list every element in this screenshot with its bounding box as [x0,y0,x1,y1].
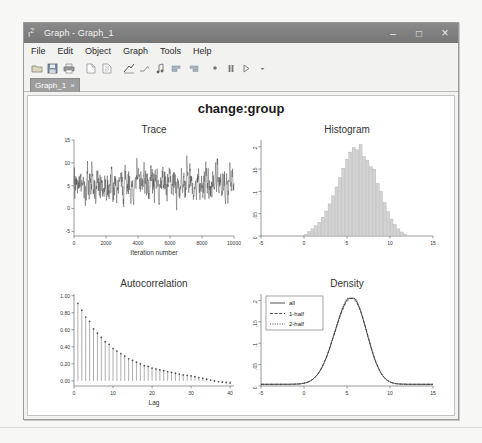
acf-marker [163,370,165,372]
y-tick-label: 10 [64,160,70,166]
x-tick-label: 8000 [196,240,207,246]
y-tick-label: 0 [67,205,70,211]
x-tick-label: 6000 [164,240,175,246]
histogram-bar [397,229,400,236]
maximize-button[interactable]: □ [406,23,432,43]
histogram-bar [332,196,335,236]
menu-bar: File Edit Object Graph Tools Help [24,43,458,59]
histogram-bar [380,191,383,236]
graph-canvas[interactable]: change:group Trace0200040006000800010000… [27,95,455,416]
x-tick-label: 5 [346,240,349,246]
plots-svg: Trace0200040006000800010000-5051015Itera… [28,118,452,408]
histogram-bar [400,232,403,236]
legend-label-all: all [289,300,295,306]
histogram-bar [335,187,338,236]
acf-marker [128,358,130,360]
panel-title: Trace [141,124,167,135]
acf-marker [104,341,106,343]
panel-trace: Trace0200040006000800010000-5051015Itera… [64,124,241,256]
histogram-bar [311,229,314,236]
add-line-icon[interactable] [137,61,152,76]
acf-marker [171,372,173,374]
acf-marker [206,378,208,380]
align-right-icon[interactable] [185,61,200,76]
y-tick-label: 0.40 [60,344,70,350]
acf-marker [93,328,95,330]
print-icon[interactable] [61,61,76,76]
menu-item-graph[interactable]: Graph [123,46,148,56]
histogram-bar [307,232,310,236]
x-tick-label: 0 [303,390,306,396]
tab-strip: Graph_1 × [24,77,458,92]
graph-editor-icon[interactable] [121,61,136,76]
histogram-bar [390,219,393,236]
x-tick-label: 15 [430,240,436,246]
acf-marker [210,379,212,381]
x-tick-label: 2000 [100,240,111,246]
desktop-background: I2 Graph - Graph_1 – □ × File Edit Objec… [0,0,482,443]
new-page-icon[interactable] [83,61,98,76]
tab-close-icon[interactable]: × [70,81,75,90]
pause-icon[interactable] [223,61,238,76]
legend-label-2-half: 2-half [289,321,304,327]
menu-item-help[interactable]: Help [193,46,212,56]
histogram-bar [404,234,407,236]
open-icon[interactable] [29,61,44,76]
acf-marker [218,381,220,383]
play-icon[interactable] [239,61,254,76]
menu-item-object[interactable]: Object [85,46,111,56]
acf-marker [194,376,196,378]
align-left-icon[interactable] [169,61,184,76]
dropdown-arrow-icon[interactable] [255,61,270,76]
add-marker-icon[interactable] [153,61,168,76]
histogram-bar [366,160,369,236]
y-tick-label: -5 [66,228,71,234]
acf-marker [100,337,102,339]
y-tick-label: .1 [252,343,258,347]
x-tick-label: 10 [387,390,393,396]
histogram-bar [338,178,341,236]
acf-marker [81,309,83,311]
record-icon[interactable] [207,61,222,76]
y-tick-label: 0 [252,386,258,389]
panel-density: Density-50510150.05.1.15.2all1-half2-hal… [252,278,436,396]
acf-marker [214,380,216,382]
graph-title: change:group [28,101,454,116]
acf-marker [89,320,91,322]
panel-title: Density [330,278,363,289]
y-tick-label: 1.00 [60,293,70,299]
acf-marker [85,316,87,318]
x-tick-label: 10 [387,240,393,246]
histogram-bar [304,234,307,236]
acf-marker [147,366,149,368]
x-tick-label: 10000 [227,240,241,246]
panel-autocorrelation: Autocorrelation0102030400.000.200.400.60… [60,278,234,407]
y-tick-label: .2 [252,300,258,304]
menu-item-file[interactable]: File [31,46,46,56]
acf-marker [229,382,231,384]
menu-item-tools[interactable]: Tools [160,46,181,56]
x-tick-label: 4000 [132,240,143,246]
x-tick-label: 5 [346,390,349,396]
histogram-bar [362,157,365,236]
desktop-divider [0,427,482,428]
y-tick-label: .15 [252,167,258,174]
acf-marker [159,369,161,371]
close-button[interactable]: × [432,23,458,43]
panel-grid: Trace0200040006000800010000-5051015Itera… [28,118,454,415]
histogram-bar [314,226,317,236]
y-tick-label: .1 [252,191,258,195]
menu-item-edit[interactable]: Edit [58,46,74,56]
y-tick-label: .05 [252,212,258,219]
save-icon[interactable] [45,61,60,76]
tab-strip-filler [80,78,458,92]
acf-marker [221,381,223,383]
trace-line [74,156,234,211]
tab-label: Graph_1 [35,81,66,90]
copy-page-icon[interactable] [99,61,114,76]
minimize-button[interactable]: – [380,23,406,43]
tab-graph-1[interactable]: Graph_1 × [30,78,80,92]
acf-marker [112,348,114,350]
acf-marker [77,303,79,305]
window-titlebar[interactable]: I2 Graph - Graph_1 – □ × [24,23,458,43]
